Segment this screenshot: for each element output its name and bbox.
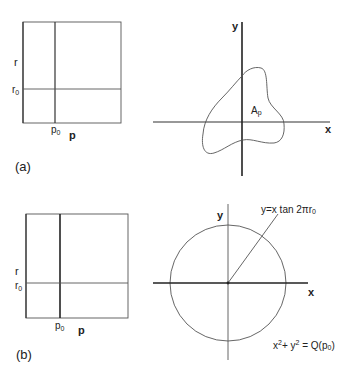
panel-b-caption: (b) [16, 347, 32, 362]
r-axis-label: r [14, 56, 18, 68]
y-axis-label: y [217, 209, 224, 221]
rp-square-frame [23, 22, 121, 123]
p0-marker-label: p0 [51, 124, 61, 136]
p-axis-label: p [69, 129, 76, 141]
panel-a-rp-square: r r0 p0 p [12, 22, 121, 141]
circle-equation-label: x2+ y2 = Q(p0) [273, 339, 335, 351]
r0-marker-label: r0 [12, 84, 19, 96]
ray-equation-main: y=x tan 2πr [261, 204, 313, 215]
panel-b-rp-square: r r0 p0 p [15, 214, 128, 336]
circle-eq-rhs: = Q(p [299, 340, 328, 351]
panel-a: r r0 p0 p (a) y x Ap [12, 20, 332, 176]
y-axis-label: y [232, 20, 239, 32]
origin-dot [227, 282, 230, 285]
p0-marker-sub: 0 [61, 325, 65, 332]
rp-square-frame [26, 214, 128, 318]
r-axis-label: r [15, 265, 19, 277]
ray-y-equals-x-tan [228, 214, 278, 283]
x-axis-label: x [325, 123, 332, 135]
p-axis-label: p [78, 324, 85, 336]
p0-marker-label: p0 [55, 320, 65, 332]
ray-equation-sub: 0 [312, 208, 316, 215]
panel-a-xy-plane: y x Ap [153, 20, 332, 176]
r0-marker-sub: 0 [18, 285, 22, 292]
circle-eq-close: ) [331, 340, 334, 351]
diagram-svg: r r0 p0 p (a) y x Ap [0, 0, 345, 371]
r0-marker-sub: 0 [15, 89, 19, 96]
panel-b-xy-plane: y x y=x tan 2πr0 x2+ y2 = Q(p0) [153, 204, 335, 360]
region-ap-label: Ap [251, 105, 262, 117]
x-axis-label: x [308, 286, 315, 298]
panel-a-caption: (a) [15, 159, 31, 174]
region-ap-outline [202, 67, 284, 153]
panel-b: r r0 p0 p (b) y x y=x tan 2πr0 x2+ y2 = … [15, 204, 335, 362]
ray-equation-label: y=x tan 2πr0 [261, 204, 316, 215]
r0-marker-label: r0 [15, 280, 22, 292]
p0-marker-sub: 0 [57, 129, 61, 136]
figure-canvas: r r0 p0 p (a) y x Ap [0, 0, 345, 371]
region-ap-sub: p [258, 109, 262, 117]
circle-eq-plus-y: + y [282, 340, 296, 351]
